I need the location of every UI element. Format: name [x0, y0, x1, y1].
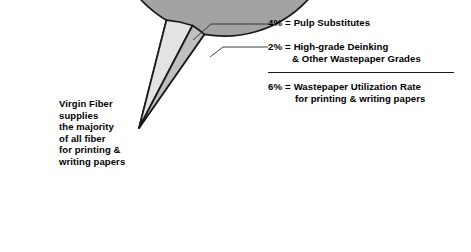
legend-label-pulp-substitutes: Pulp Substitutes [294, 17, 370, 29]
pie-inner-label-line-1: Virgin Fiber [59, 98, 151, 110]
legend-label-total-line1: Wastepaper Utilization Rate [294, 81, 421, 93]
legend-pct-high-grade-deinking: 2% [268, 41, 282, 53]
legend: 4%=Pulp Substitutes 2%=High-grade Deinki… [266, 0, 471, 252]
leader-line-high-grade-deinking [210, 47, 268, 57]
legend-pct-total: 6% [268, 81, 282, 93]
legend-item-wastepaper-utilization-rate[interactable]: 6%=Wastepaper Utilization Rate for print… [268, 81, 425, 105]
legend-equals-deinking: = [282, 41, 294, 53]
legend-divider [268, 72, 454, 73]
pie-inner-label-line-6: writing papers [59, 156, 151, 168]
legend-equals-pulp: = [282, 17, 294, 29]
pie-inner-label-line-2: supplies [59, 110, 151, 122]
legend-label-high-grade-deinking-line2: & Other Wastepaper Grades [268, 53, 421, 65]
pie-chart-figure: Virgin Fiber supplies the majority of al… [0, 0, 471, 252]
legend-pct-pulp-substitutes: 4% [268, 17, 282, 29]
pie-inner-label-line-5: for printing & [59, 144, 151, 156]
pie-inner-label-line-3: the majority [59, 121, 151, 133]
legend-label-high-grade-deinking-line1: High-grade Deinking [294, 41, 389, 53]
legend-equals-total: = [282, 81, 294, 93]
legend-item-high-grade-deinking[interactable]: 2%=High-grade Deinking & Other Wastepape… [268, 41, 421, 65]
legend-item-pulp-substitutes[interactable]: 4%=Pulp Substitutes [268, 17, 370, 29]
legend-label-total-line2: for printing & writing papers [268, 93, 425, 105]
pie-inner-label-line-4: of all fiber [59, 133, 151, 145]
pie-inner-label: Virgin Fiber supplies the majority of al… [59, 98, 151, 168]
